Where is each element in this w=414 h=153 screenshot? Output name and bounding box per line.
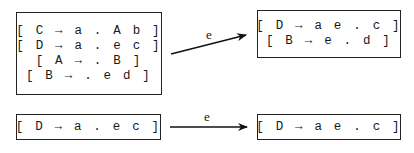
transition-arrows — [0, 0, 414, 153]
transition-label-top: e — [206, 27, 212, 43]
transition-label-bottom: e — [204, 109, 210, 125]
